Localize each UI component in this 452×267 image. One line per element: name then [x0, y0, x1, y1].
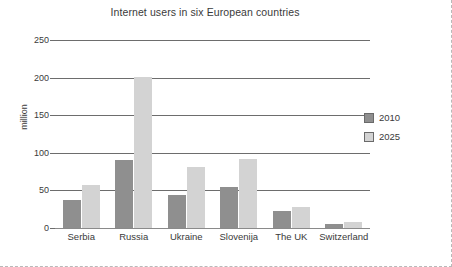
legend-swatch-icon-2010 [364, 113, 374, 123]
y-tick-label-150: 150 [34, 110, 49, 120]
bar-ukraine-2010 [168, 195, 186, 228]
bar-the-uk-2025 [292, 207, 310, 228]
chart-title: Internet users in six European countries [40, 6, 370, 18]
category-label-switzerland: Switzerland [319, 231, 368, 242]
bar-switzerland-2010 [325, 224, 343, 229]
y-tick-label-50: 50 [39, 185, 49, 195]
chart-figure: Internet users in six European countries… [0, 0, 452, 267]
chart-legend: 20102025 [364, 110, 426, 148]
legend-swatch-icon-2025 [364, 132, 374, 142]
bar-slovenija-2010 [220, 187, 238, 228]
bar-group-serbia [63, 40, 100, 228]
bar-serbia-2010 [63, 200, 81, 228]
bar-group-the-uk [273, 40, 310, 228]
bar-group-switzerland [325, 40, 362, 228]
gridline-0 [55, 228, 370, 229]
y-tick-label-0: 0 [44, 223, 49, 233]
category-label-russia: Russia [119, 231, 148, 242]
category-label-slovenija: Slovenija [219, 231, 258, 242]
plot-area: 050100150200250 [55, 40, 370, 228]
bar-russia-2010 [115, 160, 133, 228]
y-tick-label-250: 250 [34, 35, 49, 45]
bar-group-russia [115, 40, 152, 228]
y-tick-label-200: 200 [34, 73, 49, 83]
bars-layer [55, 40, 370, 228]
legend-label-2010: 2010 [379, 112, 400, 123]
category-label-the-uk: The UK [275, 231, 307, 242]
bar-serbia-2025 [82, 185, 100, 228]
category-label-ukraine: Ukraine [170, 231, 203, 242]
y-axis-label: million [19, 87, 29, 147]
legend-item-2025[interactable]: 2025 [364, 129, 426, 144]
bar-group-ukraine [168, 40, 205, 228]
bar-switzerland-2025 [344, 222, 362, 228]
category-axis: SerbiaRussiaUkraineSlovenijaThe UKSwitze… [55, 231, 370, 247]
legend-item-2010[interactable]: 2010 [364, 110, 426, 125]
legend-label-2025: 2025 [379, 131, 400, 142]
bar-group-slovenija [220, 40, 257, 228]
bar-russia-2025 [134, 77, 152, 228]
y-tick-label-100: 100 [34, 148, 49, 158]
bar-the-uk-2010 [273, 211, 291, 228]
y-tick-mark-0 [50, 228, 55, 229]
category-label-serbia: Serbia [68, 231, 95, 242]
bar-ukraine-2025 [187, 167, 205, 228]
bar-slovenija-2025 [239, 159, 257, 228]
